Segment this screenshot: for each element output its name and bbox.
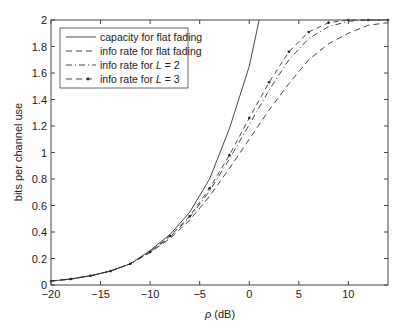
x-tick-label: 5: [296, 288, 302, 300]
y-tick-label: 0.8: [32, 173, 47, 185]
y-axis-label: bits per channel use: [12, 103, 24, 201]
y-tick-label: 1.6: [32, 67, 47, 79]
y-tick-label: 0: [41, 279, 47, 291]
y-tick-label: 0.2: [32, 253, 47, 265]
x-tick-label: 0: [246, 288, 252, 300]
y-tick-label: 0.4: [32, 226, 47, 238]
y-tick-label: 1.8: [32, 41, 47, 53]
x-tick-label: −10: [141, 288, 160, 300]
x-tick-label: −15: [91, 288, 110, 300]
chart: −20−15−10−50510 00.20.40.60.811.21.41.61…: [0, 0, 407, 327]
y-tick-label: 2: [41, 14, 47, 26]
legend-label-3: info rate for L = 2: [100, 59, 180, 71]
legend-label-4: info rate for L = 3: [100, 73, 180, 85]
legend: capacity for flat fading info rate for f…: [60, 28, 202, 88]
x-axis-label: ρ (dB): [204, 308, 235, 320]
y-tick-label: 1.4: [32, 94, 47, 106]
x-tick-label: 10: [342, 288, 354, 300]
legend-label-1: capacity for flat fading: [100, 31, 202, 43]
y-tick-label: 1: [41, 147, 47, 159]
legend-label-2: info rate for flat fading: [100, 45, 202, 57]
y-tick-label: 0.6: [32, 200, 47, 212]
y-tick-label: 1.2: [32, 120, 47, 132]
x-tick-label: −5: [193, 288, 206, 300]
